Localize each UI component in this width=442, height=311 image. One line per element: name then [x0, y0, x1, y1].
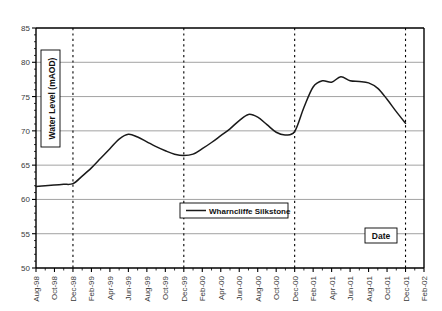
x-tick-label: Jun-01 [346, 275, 355, 300]
x-tick-label: Oct-99 [161, 275, 170, 300]
x-tick-label: Dec-98 [69, 275, 78, 301]
x-tick-label: Oct-01 [383, 275, 392, 300]
x-tick-label: Jun-00 [235, 275, 244, 300]
chart-container: 5055606570758085 Aug-98Oct-98Dec-98Feb-9… [0, 0, 442, 311]
x-tick-label: Apr-00 [217, 275, 226, 300]
x-tick-label: Aug-01 [365, 275, 374, 301]
x-tick-label: Aug-00 [254, 275, 263, 301]
y-tick-label: 50 [21, 264, 30, 273]
x-tick-label: Apr-99 [106, 275, 115, 300]
x-tick-label: Feb-01 [309, 275, 318, 301]
x-tick-label: Feb-00 [198, 275, 207, 301]
x-axis-title-text: Date [372, 231, 391, 241]
x-tick-label: Dec-01 [402, 275, 411, 301]
x-tick-label: Aug-98 [32, 275, 41, 301]
x-tick-label: Dec-00 [291, 275, 300, 301]
water-level-line-chart: 5055606570758085 Aug-98Oct-98Dec-98Feb-9… [0, 0, 442, 311]
x-axis-title-box: Date [365, 228, 397, 243]
chart-legend: Wharncliffe Silkstone [180, 203, 291, 218]
x-tick-label: Feb-02 [420, 275, 429, 301]
y-tick-label: 65 [21, 161, 30, 170]
y-axis-title-box: Water Level (mAOD) [41, 50, 60, 147]
y-tick-label: 70 [21, 127, 30, 136]
y-tick-label: 75 [21, 93, 30, 102]
y-tick-label: 85 [21, 24, 30, 33]
chart-background [0, 0, 442, 311]
legend-label-wharncliffe-silkstone: Wharncliffe Silkstone [209, 207, 291, 216]
y-tick-label: 80 [21, 58, 30, 67]
y-tick-label: 60 [21, 195, 30, 204]
x-tick-label: Oct-00 [272, 275, 281, 300]
y-tick-label: 55 [21, 230, 30, 239]
x-tick-label: Jun-99 [124, 275, 133, 300]
x-tick-label: Oct-98 [50, 275, 59, 300]
y-axis-title-text: Water Level (mAOD) [47, 57, 57, 139]
x-tick-label: Dec-99 [180, 275, 189, 301]
x-tick-label: Feb-99 [87, 275, 96, 301]
x-tick-label: Apr-01 [328, 275, 337, 300]
x-tick-label: Aug-99 [143, 275, 152, 301]
